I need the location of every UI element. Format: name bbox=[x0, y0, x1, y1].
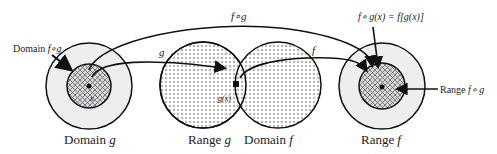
g-arrow-label: g bbox=[159, 46, 165, 58]
range-g-label: Range g bbox=[188, 132, 231, 147]
domain-fog-label: Domain f∘g bbox=[13, 43, 62, 54]
domain-g-set bbox=[46, 43, 132, 129]
f-arrow-label: f bbox=[312, 44, 317, 56]
range-f-set bbox=[339, 43, 425, 129]
domain-g-label: Domain g bbox=[64, 132, 116, 147]
gx-point-label: g(x) bbox=[218, 94, 231, 103]
range-fog-label: Range f∘ g bbox=[440, 84, 484, 95]
composition-diagram: f∘g g f Domain f∘g f∘ g(x) = f[g(x)] Ran… bbox=[0, 0, 497, 154]
composite-arrow-label: f∘g bbox=[231, 10, 247, 22]
formula-label: f∘ g(x) = f[g(x)] bbox=[358, 11, 424, 23]
range-f-label: Rangef bbox=[361, 132, 403, 147]
domain-f-label: Domain f bbox=[244, 132, 295, 147]
x-point-label: x bbox=[89, 94, 94, 103]
